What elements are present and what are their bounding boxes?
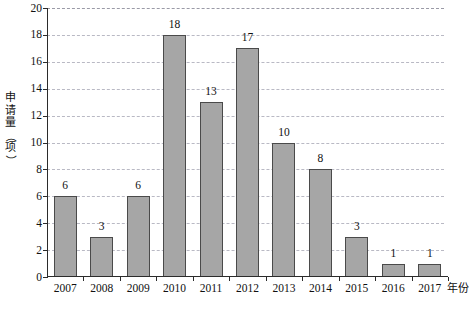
y-axis-tick — [43, 8, 48, 9]
bar-value-label: 10 — [264, 127, 304, 139]
y-axis-tick — [43, 277, 48, 278]
y-axis-title: 申请量（项） — [2, 92, 18, 166]
bar-value-label: 1 — [410, 248, 450, 260]
bar — [382, 264, 405, 277]
bar — [345, 237, 368, 277]
bar — [418, 264, 441, 277]
y-axis-tick-label: 0 — [20, 272, 42, 284]
x-axis-title: 年份 — [447, 283, 469, 295]
bar — [272, 143, 295, 278]
y-axis-tick-label: 2 — [20, 245, 42, 257]
bar-value-label: 3 — [82, 221, 122, 233]
x-axis-tick — [193, 277, 194, 281]
gridline — [47, 8, 444, 9]
x-axis-tick — [412, 277, 413, 281]
y-axis-tick-label: 4 — [20, 218, 42, 230]
bar-value-label: 18 — [155, 19, 195, 31]
bar — [200, 102, 223, 277]
x-axis-tick — [302, 277, 303, 281]
y-axis-tick-label: 16 — [20, 56, 42, 68]
bar — [90, 237, 113, 277]
x-axis-tick — [229, 277, 230, 281]
y-axis-tick-label: 14 — [20, 83, 42, 95]
x-axis-tick — [448, 277, 449, 281]
y-axis-tick — [43, 143, 48, 144]
y-axis-tick — [43, 62, 48, 63]
bar — [127, 196, 150, 277]
x-axis-tick — [83, 277, 84, 281]
bar-chart: 申请量（项） 02468101214161820 636181317108311… — [0, 0, 476, 310]
x-axis-tick — [120, 277, 121, 281]
bar-value-label: 3 — [337, 221, 377, 233]
x-axis-line — [47, 276, 448, 277]
x-axis-tick — [375, 277, 376, 281]
plot-area: 636181317108311 — [47, 8, 448, 277]
bar — [236, 48, 259, 277]
bar — [163, 35, 186, 277]
y-axis-tick — [43, 196, 48, 197]
x-axis-tick-label: 2017 — [408, 283, 452, 295]
x-axis-tick — [266, 277, 267, 281]
y-axis-tick-label: 10 — [20, 137, 42, 149]
x-axis-tick — [339, 277, 340, 281]
bar-value-label: 8 — [300, 153, 340, 165]
y-axis-tick-label: 12 — [20, 110, 42, 122]
y-axis-title-char: ） — [4, 152, 16, 168]
x-axis-tick — [156, 277, 157, 281]
bar-value-label: 17 — [228, 32, 268, 44]
y-axis-tick — [43, 89, 48, 90]
y-axis-tick — [43, 223, 48, 224]
y-axis-title-char: （ — [4, 128, 16, 144]
bar-value-label: 1 — [373, 248, 413, 260]
y-axis-tick — [43, 250, 48, 251]
y-axis-tick — [43, 35, 48, 36]
y-axis-tick-label: 18 — [20, 29, 42, 41]
y-axis-tick-label: 20 — [20, 3, 42, 15]
y-axis-tick-label: 8 — [20, 164, 42, 176]
bar-value-label: 13 — [191, 86, 231, 98]
bar-value-label: 6 — [118, 180, 158, 192]
y-axis-title-char: 申 — [2, 92, 18, 105]
bar — [54, 196, 77, 277]
y-axis-tick — [43, 169, 48, 170]
bar — [309, 169, 332, 277]
bar-value-label: 6 — [45, 180, 85, 192]
y-axis-tick — [43, 116, 48, 117]
y-axis-tick-label: 6 — [20, 191, 42, 203]
y-axis-tick-labels: 02468101214161820 — [18, 0, 42, 310]
